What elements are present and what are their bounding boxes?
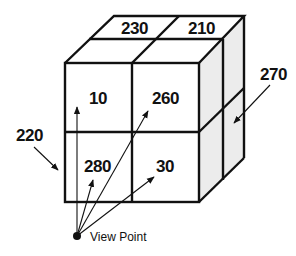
ray-to-30 (77, 177, 154, 236)
callout-label-220: 220 (16, 126, 43, 145)
view-point-label: View Point (90, 230, 147, 244)
cube-diagram: 230 210 10 260 280 30 220 270 View Point (0, 0, 296, 256)
front-cell-label: 280 (84, 157, 111, 176)
callout-arrow-220 (34, 147, 58, 170)
diagram-svg: 230 210 10 260 280 30 220 270 View Point (0, 0, 296, 256)
view-point-dot (73, 232, 81, 240)
callout-label-270: 270 (260, 65, 287, 84)
top-cell-label: 210 (188, 19, 215, 38)
ray-to-280 (77, 180, 93, 236)
front-cell-label: 30 (156, 157, 174, 176)
front-cell-label: 260 (152, 89, 179, 108)
front-cell-label: 10 (89, 89, 107, 108)
top-cell-label: 230 (121, 19, 148, 38)
front-face (65, 63, 199, 202)
